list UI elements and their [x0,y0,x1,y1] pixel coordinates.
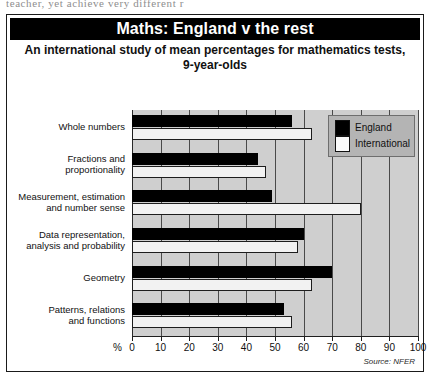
chart-title-bar: Maths: England v the rest [10,18,420,40]
bar-international-0 [132,128,312,140]
bar-england-2 [132,190,272,202]
bar-england-3 [132,228,304,240]
legend-swatch-international [335,136,350,152]
chart-figure: Maths: England v the rest An internation… [6,14,424,372]
x-axis-unit-label: % [113,342,122,353]
bar-international-4 [132,279,312,291]
page-title: Maths: England v the rest [116,20,313,38]
x-tick-60 [304,336,305,341]
source-attribution: Source: NFER [363,357,415,366]
bar-international-3 [132,241,298,253]
x-tick-70 [332,336,333,341]
x-tick-label-90: 90 [384,342,395,353]
bar-group [132,298,418,336]
bar-international-5 [132,316,292,328]
x-tick-40 [246,336,247,341]
x-tick-100 [418,336,419,341]
x-tick-label-50: 50 [269,342,280,353]
x-tick-label-80: 80 [355,342,366,353]
bar-england-0 [132,115,292,127]
x-tick-90 [389,336,390,341]
x-tick-label-20: 20 [184,342,195,353]
category-label-5: Patterns, relationsand functions [7,304,125,326]
legend-label-england: England [355,122,392,133]
chart-legend: England International [328,115,415,157]
x-tick-label-0: 0 [129,342,135,353]
chart-subtitle: An international study of mean percentag… [21,43,409,73]
x-tick-label-70: 70 [327,342,338,353]
x-tick-80 [361,336,362,341]
bar-group [132,185,418,223]
category-label-2: Measurement, estimationand number sense [7,191,125,213]
body-text-fragment: teacher, yet achieve very different r [6,0,426,11]
legend-label-international: International [355,138,410,149]
bar-group [132,261,418,299]
bar-international-1 [132,166,266,178]
bar-international-2 [132,203,361,215]
legend-swatch-england [335,120,350,136]
category-label-1: Fractions andproportionality [7,153,125,175]
x-tick-50 [275,336,276,341]
bar-england-1 [132,153,258,165]
bar-england-5 [132,303,284,315]
x-tick-label-30: 30 [212,342,223,353]
category-axis-labels: Whole numbersFractions andproportionalit… [9,110,129,336]
bar-england-4 [132,266,332,278]
x-tick-30 [218,336,219,341]
x-tick-label-100: 100 [410,342,427,353]
x-tick-label-10: 10 [155,342,166,353]
x-tick-10 [161,336,162,341]
x-tick-label-40: 40 [241,342,252,353]
bar-group [132,223,418,261]
category-label-4: Geometry [7,272,125,283]
x-tick-label-60: 60 [298,342,309,353]
x-tick-20 [189,336,190,341]
grid-line-100 [418,110,419,336]
x-axis: 0102030405060708090100 [132,336,419,354]
x-tick-0 [132,336,133,341]
category-label-3: Data representation,analysis and probabi… [7,229,125,251]
figure-page: teacher, yet achieve very different r Ma… [0,0,432,378]
category-label-0: Whole numbers [7,121,125,132]
